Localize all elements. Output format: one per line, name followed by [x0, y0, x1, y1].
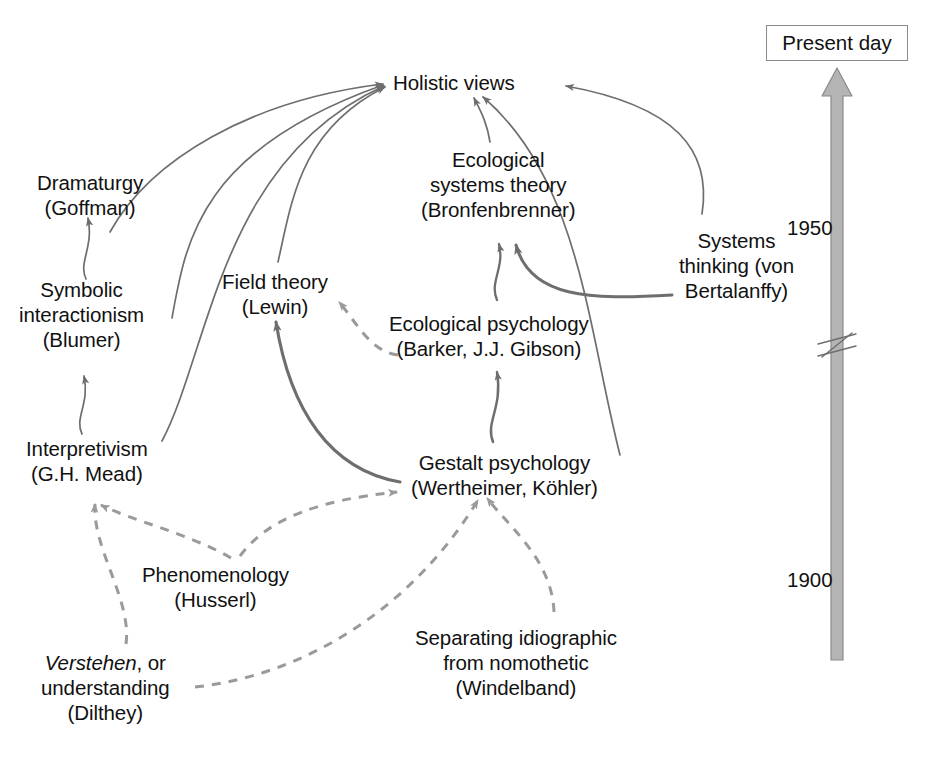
node-line: understanding	[41, 675, 170, 700]
node-line: Systems	[679, 228, 794, 253]
node-line: Dramaturgy	[37, 170, 143, 195]
node-line: Ecological psychology	[389, 311, 589, 336]
node-line: (Goffman)	[37, 195, 143, 220]
edge-interpretivism-to-symbolic	[80, 376, 86, 434]
node-line: (G.H. Mead)	[26, 461, 148, 486]
node-verstehen-dilthey[interactable]: Verstehen, or understanding (Dilthey)	[41, 650, 170, 725]
node-line: Symbolic	[19, 277, 144, 302]
edge-phenomenology-to-interpretivism	[101, 505, 231, 558]
node-line: Field theory	[222, 269, 328, 294]
edge-windelband-to-gestalt	[487, 498, 554, 612]
node-separating-idiographic[interactable]: Separating idiographic from nomothetic (…	[415, 625, 617, 700]
node-field-theory-lewin[interactable]: Field theory (Lewin)	[222, 269, 328, 319]
node-line: Ecological	[421, 147, 576, 172]
edge-fieldtheory-to-holistic	[278, 87, 385, 262]
edge-systems-to-holistic	[566, 86, 704, 214]
node-dramaturgy-goffman[interactable]: Dramaturgy (Goffman)	[37, 170, 143, 220]
node-line: thinking (von	[679, 253, 794, 278]
node-line: interactionism	[19, 302, 144, 327]
node-line: Holistic views	[393, 70, 515, 95]
present-day-box: Present day	[766, 25, 908, 61]
timeline-break-icon	[818, 333, 856, 357]
node-line: systems theory	[421, 172, 576, 197]
node-symbolic-interactionism-blumer[interactable]: Symbolic interactionism (Blumer)	[19, 277, 144, 352]
edge-gestalt-to-fieldtheory	[276, 322, 400, 482]
node-phenomenology-husserl[interactable]: Phenomenology (Husserl)	[142, 562, 289, 612]
node-systems-thinking[interactable]: Systems thinking (von Bertalanffy)	[679, 228, 794, 303]
edge-symbolic-to-dramaturgy	[84, 218, 90, 279]
edge-ecopsych-to-ecosystems	[495, 244, 501, 300]
diagram-canvas: Present day 1950 1900 Holistic views Dra…	[0, 0, 929, 763]
node-line-verstehen: Verstehen, or	[41, 650, 170, 675]
edge-gestalt-to-ecopsych	[491, 372, 498, 442]
node-line: (Dilthey)	[41, 700, 170, 725]
edge-ecosystems-to-holistic	[474, 98, 490, 142]
node-line: (Wertheimer, Köhler)	[411, 475, 598, 500]
node-holistic-views[interactable]: Holistic views	[393, 70, 515, 95]
node-line: (Blumer)	[19, 327, 144, 352]
node-ecological-psychology[interactable]: Ecological psychology (Barker, J.J. Gibs…	[389, 311, 589, 361]
node-line: (Windelband)	[415, 675, 617, 700]
node-gestalt-psychology[interactable]: Gestalt psychology (Wertheimer, Köhler)	[411, 450, 598, 500]
node-line: Separating idiographic	[415, 625, 617, 650]
node-line: Gestalt psychology	[411, 450, 598, 475]
node-line: (Bronfenbrenner)	[421, 197, 576, 222]
timeline-tick-1900: 1900	[787, 568, 833, 592]
edge-phenomenology-to-gestalt	[240, 492, 397, 556]
node-line: from nomothetic	[415, 650, 617, 675]
node-line: Bertalanffy)	[679, 278, 794, 303]
edge-interpretivism-to-holistic	[162, 86, 384, 441]
node-line: (Barker, J.J. Gibson)	[389, 336, 589, 361]
present-day-label: Present day	[782, 31, 891, 55]
node-line: Phenomenology	[142, 562, 289, 587]
node-line: (Husserl)	[142, 587, 289, 612]
node-line: (Lewin)	[222, 294, 328, 319]
node-ecological-systems-theory[interactable]: Ecological systems theory (Bronfenbrenne…	[421, 147, 576, 222]
edge-verstehen-to-interpretivism	[95, 504, 127, 644]
edge-systems-to-ecosystems	[516, 245, 672, 297]
node-line: Interpretivism	[26, 436, 148, 461]
verstehen-italic-term: Verstehen	[45, 651, 137, 674]
node-interpretivism-mead[interactable]: Interpretivism (G.H. Mead)	[26, 436, 148, 486]
edge-dramaturgy-to-holistic	[110, 84, 383, 232]
